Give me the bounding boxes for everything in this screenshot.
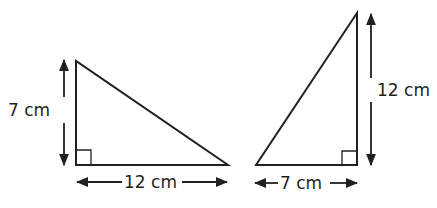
- right-base-label: 7 cm: [280, 173, 322, 193]
- left-triangle-shape: [76, 61, 228, 165]
- right-angle-marker: [76, 150, 91, 165]
- left-base-label: 12 cm: [124, 172, 177, 192]
- diagram-canvas: 7 cm 12 cm 12 cm 7 cm: [0, 0, 437, 208]
- right-triangle: 12 cm 7 cm: [255, 13, 430, 193]
- right-height-label: 12 cm: [377, 80, 430, 100]
- right-angle-marker: [342, 151, 357, 165]
- left-height-label: 7 cm: [8, 100, 50, 120]
- right-triangle-shape: [256, 13, 357, 165]
- left-triangle: 7 cm 12 cm: [8, 60, 228, 192]
